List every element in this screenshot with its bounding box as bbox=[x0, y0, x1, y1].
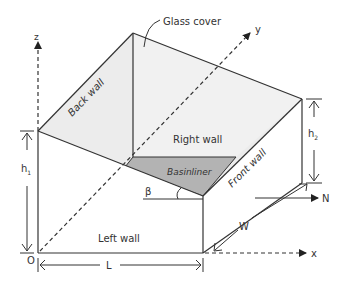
left-wall-label: Left wall bbox=[98, 233, 140, 244]
solar-still-diagram: Glass cover Back wall Right wall Basinli… bbox=[0, 0, 347, 287]
x-axis-label: x bbox=[311, 248, 317, 259]
north-label: N bbox=[322, 193, 329, 204]
y-axis-label: y bbox=[255, 24, 261, 35]
dim-h1-label: h1 bbox=[21, 163, 31, 176]
dim-L-label: L bbox=[106, 260, 112, 271]
dim-h2-label: h2 bbox=[308, 128, 318, 141]
dimension-L bbox=[38, 258, 203, 272]
basin-liner-label: Basinliner bbox=[167, 167, 213, 177]
dimension-h1 bbox=[20, 131, 34, 253]
beta-angle-label: β bbox=[145, 186, 151, 197]
origin-label: O bbox=[27, 255, 35, 266]
right-wall-label: Right wall bbox=[173, 134, 222, 145]
glass-cover-label: Glass cover bbox=[163, 16, 222, 27]
dim-W-label: W bbox=[239, 221, 249, 232]
dimension-h2 bbox=[306, 99, 322, 183]
z-axis-label: z bbox=[34, 32, 39, 42]
